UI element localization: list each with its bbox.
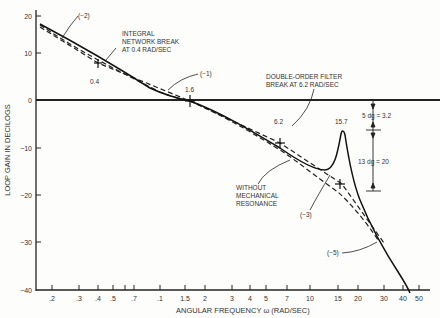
annotation-integral: NETWORK BREAK xyxy=(122,38,180,45)
ytick-m40: −40 xyxy=(20,287,32,294)
xtick: .3 xyxy=(76,295,82,302)
xtick: .2 xyxy=(49,295,55,302)
xtick: 3 xyxy=(230,295,234,302)
annotation-without: MECHANICAL xyxy=(236,192,279,199)
ytick-20: 20 xyxy=(24,13,32,20)
xtick: .4 xyxy=(95,295,101,302)
xtick: 1.5 xyxy=(180,295,190,302)
x-ticks xyxy=(52,285,419,290)
xtick: 20 xyxy=(354,295,362,302)
ytick-m20: −20 xyxy=(20,192,32,199)
annotation-slope-m1: (−1) xyxy=(200,70,212,78)
x-tick-labels: .2 .3 .4 .5 .7 .1 1.5 2 3 4 5 7 10 15 20… xyxy=(49,295,423,302)
xtick: 4 xyxy=(248,295,252,302)
y-ticks xyxy=(36,16,41,242)
xtick: .1 xyxy=(157,295,163,302)
ytick-m10: −10 xyxy=(20,145,32,152)
loop-gain-curve xyxy=(40,24,410,293)
without-resonance-curve xyxy=(40,25,378,240)
annotation-157: 15.7 xyxy=(335,118,348,125)
annotation-16: 1.6 xyxy=(185,86,194,93)
annotation-without: RESONANCE xyxy=(236,200,278,207)
annotation-integral: INTEGRAL xyxy=(122,30,155,37)
annotation-5dg: 5 dg = 3.2 xyxy=(362,112,391,120)
xtick: 2 xyxy=(203,295,207,302)
xtick: 5 xyxy=(264,295,268,302)
annotation-13dg: 13 dg = 20 xyxy=(358,158,389,166)
xtick: 40 xyxy=(399,295,407,302)
xtick: 7 xyxy=(285,295,289,302)
annotations: (−2) INTEGRAL NETWORK BREAK AT 0.4 RAD/S… xyxy=(62,12,391,257)
annotation-without: WITHOUT xyxy=(236,184,266,191)
xtick: .7 xyxy=(131,295,137,302)
annotation-integral: AT 0.4 RAD/SEC xyxy=(122,46,172,53)
xtick: 15 xyxy=(334,295,342,302)
annotation-62: 6.2 xyxy=(274,118,283,125)
loop-gain-chart: 20 10 0 −10 −20 −30 −40 .2 .3 .4 .5 .7 .… xyxy=(0,0,440,318)
ytick-m30: −30 xyxy=(20,239,32,246)
xtick: 10 xyxy=(306,295,314,302)
xtick: 50 xyxy=(415,295,423,302)
annotation-slope-m3: (−3) xyxy=(300,211,312,219)
x-axis-label: ANGULAR FREQUENCY ω (RAD/SEC) xyxy=(176,306,310,315)
y-tick-labels: 20 10 0 −10 −20 −30 −40 xyxy=(20,13,32,294)
xtick: .5 xyxy=(110,295,116,302)
annotation-04: 0.4 xyxy=(90,78,99,85)
ytick-0: 0 xyxy=(28,97,32,104)
annotation-slope-m5: (−5) xyxy=(327,249,339,257)
annotation-filter: BREAK AT 6.2 RAD/SEC xyxy=(266,81,339,88)
asymptote-curve xyxy=(40,27,384,243)
xtick: 30 xyxy=(380,295,388,302)
ytick-10: 10 xyxy=(24,50,32,57)
annotation-filter: DOUBLE-ORDER FILTER xyxy=(266,73,342,80)
annotation-slope-m2: (−2) xyxy=(78,12,90,20)
y-axis-label: LOOP GAIN IN DECILOGS xyxy=(3,104,12,196)
